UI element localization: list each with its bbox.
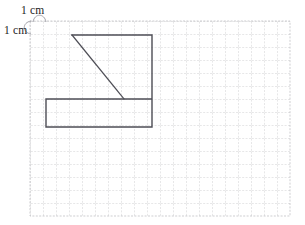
figure-canvas: 1 cm 1 cm [0,0,305,225]
horizontal-scale-label: 1 cm [21,5,44,17]
graph-grid [30,21,290,216]
geometry-figure [0,0,305,225]
vertical-scale-label: 1 cm [4,25,27,37]
